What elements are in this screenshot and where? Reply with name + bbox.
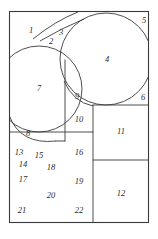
region-label-10: 10 <box>75 114 84 124</box>
region-label-13: 13 <box>15 147 24 157</box>
region-label-20: 20 <box>47 190 56 200</box>
region-label-17: 17 <box>19 174 28 184</box>
region-label-11: 11 <box>117 126 125 136</box>
region-label-14: 14 <box>19 159 28 169</box>
region-label-3: 3 <box>58 27 63 37</box>
region-label-5: 5 <box>142 15 146 25</box>
region-diagram-svg: 1 2 3 4 5 6 7 8 9 10 11 12 13 14 15 16 1… <box>0 0 158 239</box>
figure-container: 1 2 3 4 5 6 7 8 9 10 11 12 13 14 15 16 1… <box>0 0 158 239</box>
region-label-19: 19 <box>75 176 84 186</box>
region-label-22: 22 <box>75 205 84 215</box>
region-label-15: 15 <box>35 150 44 160</box>
region-label-16: 16 <box>75 147 84 157</box>
region-label-12: 12 <box>117 188 126 198</box>
region-label-21: 21 <box>18 205 27 215</box>
region-label-1: 1 <box>29 25 33 35</box>
region-label-18: 18 <box>47 162 56 172</box>
